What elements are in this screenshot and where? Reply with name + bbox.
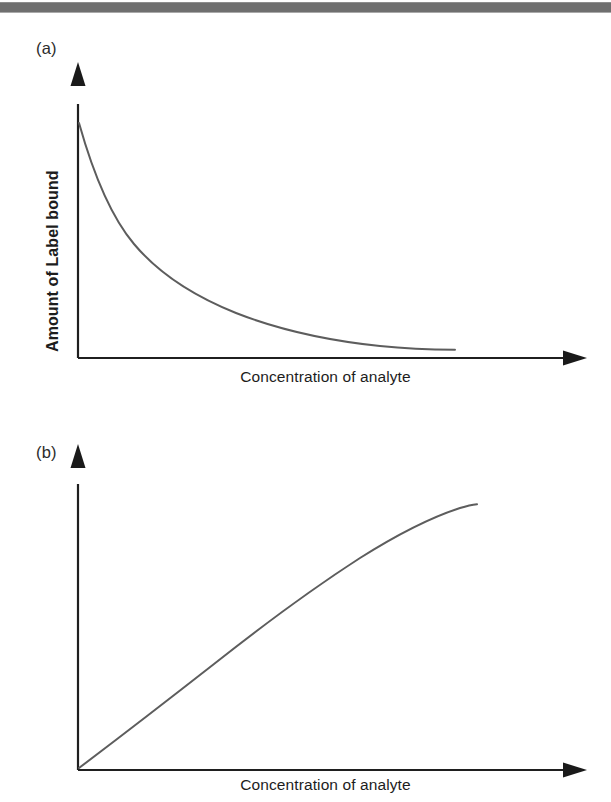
panel-b-y-axis-arrowhead — [71, 444, 86, 468]
panel-a-decay-curve — [79, 123, 455, 350]
scan-edge-bar — [0, 2, 611, 13]
panel-a-plot — [0, 30, 611, 395]
figure-root: (a) Amount of Label bound Concentration … — [0, 0, 611, 802]
panel-b: (b) Amount of Label bound Concentration … — [0, 432, 611, 802]
panel-b-x-axis-arrowhead — [563, 763, 587, 778]
panel-a: (a) Amount of Label bound Concentration … — [0, 30, 611, 395]
panel-b-saturation-curve — [79, 504, 477, 768]
panel-a-x-axis-arrowhead — [563, 351, 587, 366]
panel-b-plot — [0, 432, 611, 802]
panel-a-y-axis-arrowhead — [71, 62, 86, 86]
